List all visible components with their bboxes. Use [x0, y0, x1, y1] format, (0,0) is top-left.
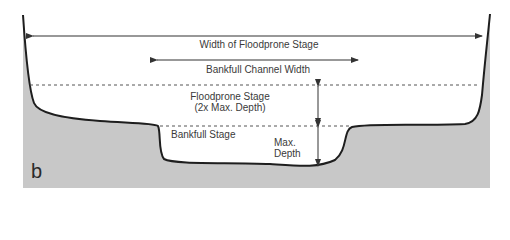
bankfull-stage-label: Bankfull Stage: [171, 129, 236, 140]
panel-label: b: [31, 160, 42, 182]
floodprone-stage-label-line2: (2x Max. Depth): [190, 102, 270, 113]
bankfull-width-label: Bankfull Channel Width: [206, 64, 310, 75]
max-depth-label-line1: Max.: [274, 137, 301, 148]
max-depth-label-line2: Depth: [274, 148, 301, 159]
max-depth-label: Max. Depth: [274, 137, 301, 159]
floodprone-stage-label: Floodprone Stage (2x Max. Depth): [190, 91, 270, 113]
floodprone-width-label: Width of Floodprone Stage: [200, 39, 319, 50]
floodprone-stage-label-line1: Floodprone Stage: [190, 91, 270, 102]
